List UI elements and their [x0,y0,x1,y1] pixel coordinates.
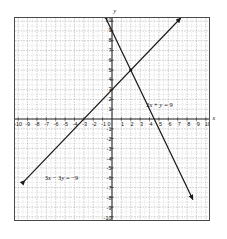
y-tick-label: -2 [107,137,112,142]
y-tick-label: 9 [108,28,111,33]
x-tick-label: -9 [25,122,30,127]
y-tick-label: 7 [108,48,111,53]
y-tick-label: 10 [105,18,111,23]
x-tick-label: 9 [197,122,200,127]
y-tick-label: 4 [108,78,111,83]
y-tick-label: 3 [108,88,111,93]
x-tick-label: 10 [205,122,210,127]
x-tick-label: -2 [92,122,97,127]
y-tick-label: -1 [107,127,112,132]
y-tick-label: 6 [108,58,111,63]
x-tick-label: 8 [187,122,190,127]
y-tick-label: -9 [107,206,112,211]
x-tick-label: 2 [130,122,133,127]
coordinate-plane: -10-9-8-7-6-5-4-3-2-1012345678910-10-9-8… [14,17,210,221]
y-tick-label: 1 [108,107,111,112]
equation-label-line-2: 3x − 3y = −9 [45,174,79,181]
x-tick-label: -4 [73,122,78,127]
x-tick-label: -1 [101,122,106,127]
y-tick-label: -8 [107,196,112,201]
x-tick-label: 3 [140,122,143,127]
graph-screenshot: -10-9-8-7-6-5-4-3-2-1012345678910-10-9-8… [0,0,227,239]
y-tick-label: -7 [107,186,112,191]
x-axis-name: x [213,115,216,121]
x-tick-label: -7 [44,122,49,127]
y-tick-label: 5 [108,68,111,73]
x-tick-label: -6 [54,122,59,127]
y-tick-label: -4 [107,157,112,162]
x-tick-label: -3 [82,122,87,127]
label-layer: -10-9-8-7-6-5-4-3-2-1012345678910-10-9-8… [15,18,209,220]
y-tick-label: -6 [107,177,112,182]
equation-label-line-1: 2x + y = 9 [146,101,173,108]
y-axis-name: y [114,8,117,14]
y-tick-label: -5 [107,167,112,172]
y-tick-label: 2 [108,98,111,103]
y-tick-label: -3 [107,147,112,152]
x-tick-label: -10 [14,122,22,127]
x-tick-label: 7 [178,122,181,127]
x-tick-label: 6 [168,122,171,127]
x-tick-label: 5 [159,122,162,127]
y-tick-label: -10 [104,216,112,221]
x-tick-label: 4 [149,122,152,127]
x-tick-label: -8 [35,122,40,127]
x-tick-label: 1 [121,122,124,127]
y-tick-label: 8 [108,38,111,43]
x-tick-label: -5 [63,122,68,127]
